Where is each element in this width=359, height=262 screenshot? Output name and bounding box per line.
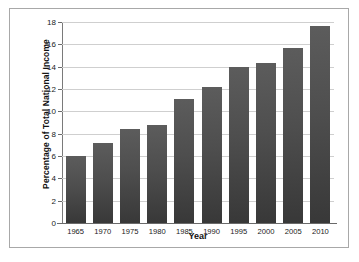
- y-tick-label: 6: [52, 152, 56, 161]
- bar: [202, 87, 222, 223]
- bar-slot: [229, 22, 249, 223]
- y-tick-label: 14: [47, 62, 56, 71]
- y-tick-label: 8: [52, 129, 56, 138]
- bar: [174, 99, 194, 223]
- y-tick-mark: [58, 223, 62, 224]
- bar: [93, 143, 113, 223]
- bar-series: [62, 22, 334, 223]
- y-tick-label: 12: [47, 85, 56, 94]
- bar: [256, 63, 276, 223]
- bar: [66, 156, 86, 223]
- bar: [283, 48, 303, 223]
- y-tick-label: 10: [47, 107, 56, 116]
- y-tick-label: 18: [47, 18, 56, 27]
- y-tick-label: 2: [52, 196, 56, 205]
- bar-slot: [256, 22, 276, 223]
- bar-slot: [93, 22, 113, 223]
- bar-slot: [174, 22, 194, 223]
- y-tick-label: 4: [52, 174, 56, 183]
- x-axis-line: [57, 223, 337, 224]
- bar-slot: [202, 22, 222, 223]
- bar-slot: [310, 22, 330, 223]
- bar-slot: [120, 22, 140, 223]
- bar: [147, 125, 167, 223]
- bar-slot: [283, 22, 303, 223]
- bar-slot: [66, 22, 86, 223]
- bar-slot: [147, 22, 167, 223]
- chart-frame: Percentage of Total National Income 0246…: [9, 8, 349, 248]
- x-axis-title: Year: [62, 231, 334, 241]
- chart-figure: Percentage of Total National Income 0246…: [0, 0, 359, 262]
- bar: [229, 67, 249, 223]
- plot-area: 024681012141618 196519701975198019851990…: [62, 22, 334, 223]
- y-tick-label: 16: [47, 40, 56, 49]
- bar: [310, 26, 330, 223]
- bar: [120, 129, 140, 223]
